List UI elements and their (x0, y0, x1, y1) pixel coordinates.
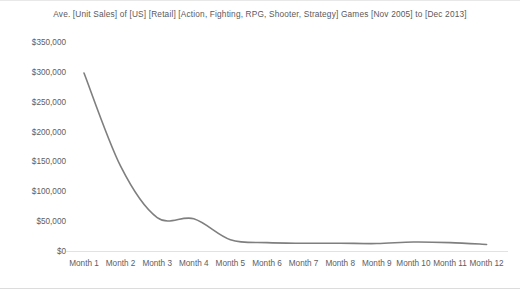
x-tick-label: Month 9 (362, 259, 392, 268)
x-tick-label: Month 7 (289, 259, 319, 268)
x-tick-label: Month 5 (216, 259, 246, 268)
x-axis: Month 1Month 2Month 3Month 4Month 5Month… (0, 0, 520, 289)
x-tick-label: Month 6 (252, 259, 282, 268)
x-tick-label: Month 11 (433, 259, 467, 268)
x-tick-label: Month 3 (142, 259, 172, 268)
plot-area: $0$50,000$100,000$150,000$200,000$250,00… (0, 0, 520, 289)
x-tick-label: Month 12 (470, 259, 504, 268)
x-tick-label: Month 10 (396, 259, 430, 268)
x-tick-label: Month 1 (69, 259, 99, 268)
x-tick-label: Month 4 (179, 259, 209, 268)
x-tick-label: Month 8 (325, 259, 355, 268)
chart-container: Ave. [Unit Sales] of [US] [Retail] [Acti… (0, 0, 520, 289)
x-tick-label: Month 2 (106, 259, 136, 268)
